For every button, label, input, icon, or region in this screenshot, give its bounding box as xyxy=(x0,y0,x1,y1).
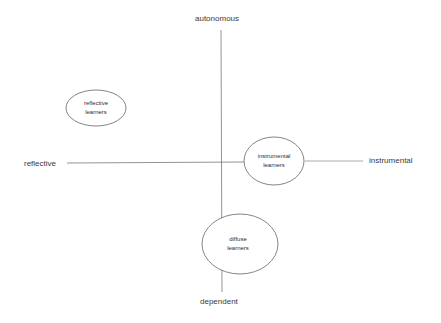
diffuse-learners-line1: diffuse xyxy=(203,235,273,244)
axis-label-reflective: reflective xyxy=(24,160,56,168)
reflective-learners-label: reflective learners xyxy=(61,99,131,117)
instrumental-learners-line1: instrumental xyxy=(239,152,309,161)
axis-label-dependent: dependent xyxy=(200,298,238,306)
reflective-learners-line2: learners xyxy=(61,108,131,117)
diffuse-learners-label: diffuse learners xyxy=(203,235,273,253)
horizontal-axis-line-left xyxy=(67,162,244,163)
diffuse-learners-line2: learners xyxy=(203,244,273,253)
axis-label-autonomous: autonomous xyxy=(195,15,239,23)
instrumental-learners-label: instrumental learners xyxy=(239,152,309,170)
axis-label-instrumental: instrumental xyxy=(369,157,413,165)
reflective-learners-line1: reflective xyxy=(61,99,131,108)
instrumental-learners-line2: learners xyxy=(239,161,309,170)
